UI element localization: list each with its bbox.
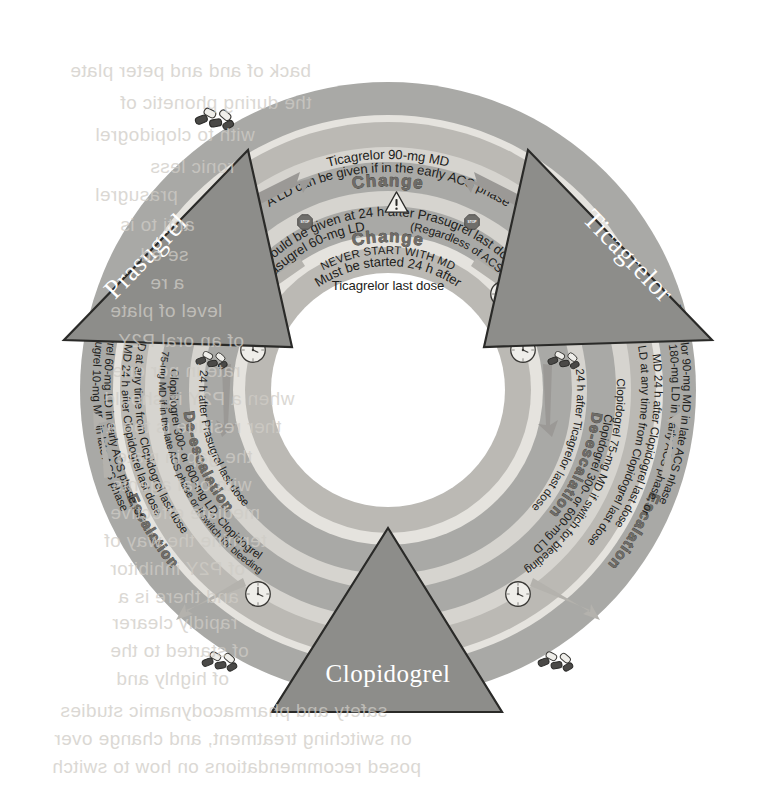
t2p-inner-line-2: Ticagrelor last dose	[332, 278, 445, 293]
switching-wheel-diagram: STOP Ticagrelor 90-mg MD	[0, 0, 776, 791]
pills-icon	[194, 107, 234, 130]
clock-icon	[506, 582, 531, 607]
stop-sign-icon	[465, 215, 480, 230]
stop-sign-icon	[298, 215, 313, 230]
clock-icon	[246, 582, 271, 607]
triangle-clopidogrel-label: Clopidogrel	[326, 660, 451, 687]
wheel-svg: STOP Ticagrelor 90-mg MD	[0, 0, 776, 791]
